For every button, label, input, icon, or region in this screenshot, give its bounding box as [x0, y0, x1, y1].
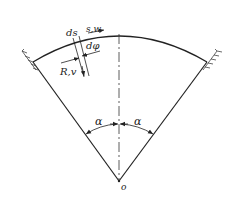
label-origin: o: [121, 182, 127, 192]
label-ds: ds: [66, 27, 78, 38]
origin-point: [118, 180, 120, 182]
dphi-arrow-icon: [82, 51, 100, 56]
right-fixed-support-icon: [203, 49, 222, 70]
rv-arrow-icon: [61, 58, 79, 63]
label-sw: s,w: [86, 24, 101, 34]
label-dphi: dφ: [86, 40, 99, 51]
label-alpha-right: α: [134, 115, 142, 128]
arch-curve: [33, 36, 207, 62]
right-radius-line: [119, 62, 207, 181]
label-alpha-left: α: [95, 115, 103, 128]
arch-diagram: ds s,w dφ R,v α α o: [0, 0, 243, 209]
label-rv: R,v: [59, 66, 77, 77]
left-radius-line: [33, 62, 119, 181]
left-fixed-support-icon: [22, 49, 38, 70]
